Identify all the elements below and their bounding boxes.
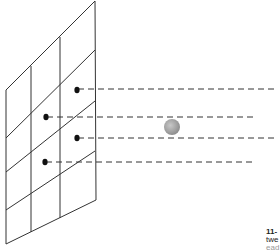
sphere	[164, 119, 180, 135]
grid-panel	[6, 1, 96, 244]
figure-caption: 11- twe ead	[266, 228, 279, 252]
grid-line-horizontal	[6, 50, 95, 138]
grid-dot	[74, 87, 79, 93]
grid-dot	[42, 159, 47, 165]
grid-dot	[74, 135, 79, 141]
caption-line-3: ead	[266, 244, 279, 252]
grid-line-horizontal	[6, 101, 95, 172]
grid-dot	[43, 114, 48, 120]
grid-line-horizontal	[6, 151, 95, 210]
